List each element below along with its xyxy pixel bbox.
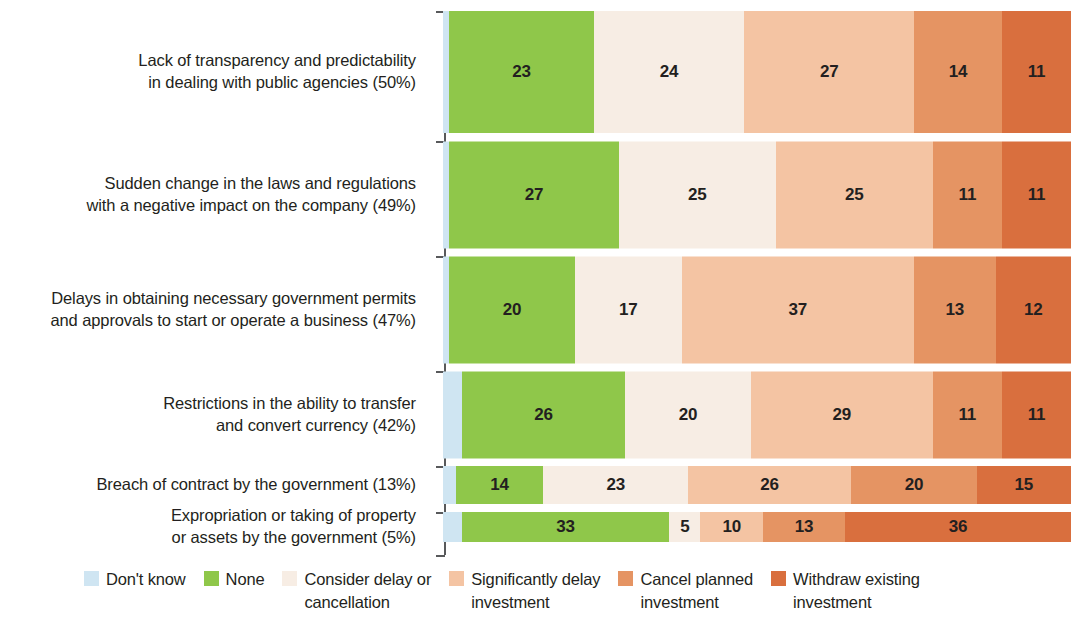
bar-segment: 27	[449, 141, 619, 248]
bar-segment: 14	[456, 466, 544, 504]
segment-value: 20	[503, 300, 522, 320]
legend-item[interactable]: Cancel planned investment	[618, 568, 753, 614]
bar-segment: 29	[751, 371, 933, 458]
bar-segment: 12	[996, 256, 1071, 363]
bar-segment: 13	[763, 512, 845, 542]
bar-segment: 20	[449, 256, 575, 363]
bar-wrapper: 21423262015	[430, 466, 1075, 504]
bar-segment: 3	[443, 371, 462, 458]
segment-value: 29	[832, 405, 851, 425]
segment-value: 25	[845, 185, 864, 205]
bar-wrapper: 12017371312	[430, 256, 1075, 363]
chart-row: Breach of contract by the government (13…	[0, 466, 1075, 504]
bar-segment: 20	[851, 466, 977, 504]
legend-item[interactable]: Withdraw existing investment	[771, 568, 920, 614]
legend-swatch-icon	[84, 571, 99, 586]
bar-segment: 11	[933, 371, 1002, 458]
segment-value: 26	[534, 405, 553, 425]
segment-value: 33	[556, 517, 575, 537]
stacked-bar-chart: Lack of transparency and predictability …	[0, 0, 1075, 624]
legend-item[interactable]: None	[204, 568, 265, 591]
stacked-bar: 21423262015	[443, 466, 1071, 504]
legend-swatch-icon	[449, 571, 464, 586]
legend-item[interactable]: Don't know	[84, 568, 186, 591]
chart-row: Delays in obtaining necessary government…	[0, 256, 1075, 363]
chart-row: Sudden change in the laws and regulation…	[0, 141, 1075, 248]
segment-value: 27	[525, 185, 544, 205]
row-label: Lack of transparency and predictability …	[0, 50, 430, 94]
bar-segment: 11	[933, 141, 1002, 248]
chart-rows: Lack of transparency and predictability …	[0, 0, 1075, 566]
bar-segment: 33	[462, 512, 669, 542]
segment-value: 26	[760, 475, 779, 495]
bar-segment: 36	[845, 512, 1071, 542]
segment-value: 27	[820, 62, 839, 82]
bar-segment: 25	[776, 141, 933, 248]
bar-segment: 11	[1002, 371, 1071, 458]
chart-row: Expropriation or taking of property or a…	[0, 512, 1075, 542]
segment-value: 25	[688, 185, 707, 205]
segment-value: 23	[512, 62, 531, 82]
bar-segment: 25	[619, 141, 776, 248]
bar-segment: 13	[914, 256, 996, 363]
stacked-bar: 3335101336	[443, 512, 1071, 542]
segment-value: 5	[680, 517, 689, 537]
bar-segment: 23	[543, 466, 687, 504]
bar-segment: 37	[682, 256, 914, 363]
segment-value: 13	[795, 517, 814, 537]
bar-segment: 2	[443, 466, 456, 504]
bar-segment: 20	[625, 371, 751, 458]
segment-value: 20	[679, 405, 698, 425]
chart-row: Lack of transparency and predictability …	[0, 11, 1075, 133]
row-label: Breach of contract by the government (13…	[0, 474, 430, 496]
segment-value: 36	[949, 517, 968, 537]
legend-label: Don't know	[106, 568, 186, 591]
segment-value: 24	[660, 62, 679, 82]
bar-wrapper: 3335101336	[430, 512, 1075, 542]
legend-swatch-icon	[771, 571, 786, 586]
bar-segment: 10	[700, 512, 763, 542]
legend-swatch-icon	[618, 571, 633, 586]
segment-value: 11	[1028, 405, 1046, 425]
row-label: Expropriation or taking of property or a…	[0, 505, 430, 549]
legend-label: None	[226, 568, 265, 591]
legend-label: Significantly delay investment	[471, 568, 600, 614]
bar-segment: 24	[594, 11, 745, 133]
bar-segment: 27	[744, 11, 914, 133]
segment-value: 20	[905, 475, 924, 495]
bar-segment: 11	[1002, 11, 1071, 133]
segment-value: 23	[606, 475, 625, 495]
segment-value: 10	[723, 517, 742, 537]
stacked-bar: 32620291111	[443, 371, 1071, 458]
legend-swatch-icon	[282, 571, 297, 586]
segment-value: 12	[1024, 300, 1043, 320]
bar-segment: 15	[977, 466, 1071, 504]
row-label: Restrictions in the ability to transfer …	[0, 393, 430, 437]
bar-segment: 5	[669, 512, 700, 542]
segment-value: 13	[946, 300, 965, 320]
bar-segment: 11	[1002, 141, 1071, 248]
segment-value: 11	[959, 405, 977, 425]
segment-value: 37	[789, 300, 808, 320]
stacked-bar: 12017371312	[443, 256, 1071, 363]
segment-value: 14	[490, 475, 509, 495]
segment-value: 11	[1028, 185, 1046, 205]
bar-segment: 26	[462, 371, 625, 458]
segment-value: 14	[949, 62, 968, 82]
legend-label: Cancel planned investment	[640, 568, 753, 614]
legend-label: Consider delay or cancellation	[304, 568, 431, 614]
bar-wrapper: 12324271411	[430, 11, 1075, 133]
legend-item[interactable]: Significantly delay investment	[449, 568, 600, 614]
segment-value: 15	[1015, 475, 1034, 495]
bar-segment: 17	[575, 256, 682, 363]
row-label: Delays in obtaining necessary government…	[0, 288, 430, 332]
bar-wrapper: 12725251111	[430, 141, 1075, 248]
chart-row: Restrictions in the ability to transfer …	[0, 371, 1075, 458]
legend-swatch-icon	[204, 571, 219, 586]
bar-segment: 26	[688, 466, 851, 504]
segment-value: 11	[959, 185, 977, 205]
bar-wrapper: 32620291111	[430, 371, 1075, 458]
legend-item[interactable]: Consider delay or cancellation	[282, 568, 431, 614]
segment-value: 11	[1028, 62, 1046, 82]
row-label: Sudden change in the laws and regulation…	[0, 173, 430, 217]
